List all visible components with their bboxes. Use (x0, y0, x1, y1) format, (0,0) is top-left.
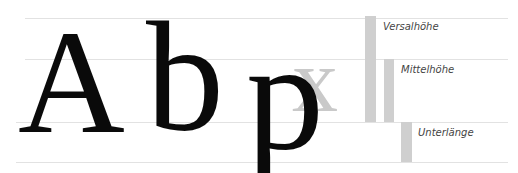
descender-bar (401, 122, 412, 162)
x-height-bar (384, 59, 394, 122)
cap-height-bar (365, 16, 376, 122)
capital-a-glyph: A (18, 8, 125, 156)
descender-label: Unterlänge (418, 127, 474, 138)
x-height-label: Mittelhöhe (401, 64, 454, 75)
cap-height-label: Versalhöhe (383, 21, 439, 32)
typography-metrics-diagram: x A b p Versalhöhe Mittelhöhe Unterlänge (0, 0, 518, 173)
ascender-b-glyph: b (146, 0, 224, 155)
descender-p-glyph: p (246, 19, 324, 173)
